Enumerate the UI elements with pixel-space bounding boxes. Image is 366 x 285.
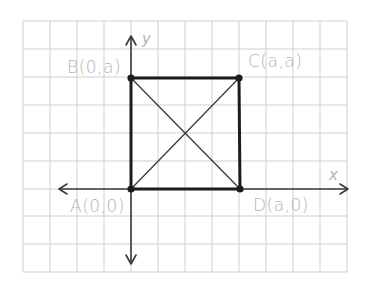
point-label-b: B(0,a): [67, 57, 121, 77]
point-label-a: A(0,0): [70, 196, 125, 216]
x-axis-label: x: [328, 166, 338, 184]
vertex-b: [127, 74, 134, 81]
point-label-d: D(a,0): [253, 195, 309, 215]
vertex-d: [236, 185, 243, 192]
point-label-c: C(a,a): [248, 51, 302, 71]
vertex-c: [235, 74, 242, 81]
y-axis-label: y: [141, 30, 152, 48]
coordinate-diagram: y x B(0,a) C(a,a) A(0,0) D(a,0): [0, 0, 366, 285]
vertex-a: [127, 185, 134, 192]
